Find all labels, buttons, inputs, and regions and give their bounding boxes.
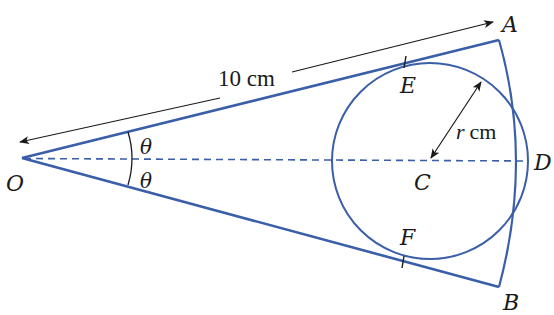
sector-inscribed-circle-diagram: 10 cm rcm θ θ O A B C D E F	[0, 0, 554, 315]
dimension-label-10cm: 10 cm	[218, 66, 275, 91]
point-label-F: F	[399, 225, 416, 250]
point-label-D: D	[533, 150, 552, 175]
dashed-line-OD	[24, 159, 528, 162]
point-label-O: O	[6, 171, 24, 196]
point-label-C: C	[414, 170, 431, 195]
point-label-E: E	[399, 73, 416, 98]
dimension-arrow-right	[292, 22, 493, 72]
arc-ADB	[499, 40, 516, 287]
angle-arc	[128, 132, 132, 185]
tick-F	[402, 256, 404, 268]
angle-label-top: θ	[140, 135, 152, 159]
side-OA	[22, 40, 499, 158]
angle-label-bottom: θ	[140, 169, 152, 193]
point-label-B: B	[502, 290, 519, 315]
radius-label-r: rcm	[456, 119, 496, 144]
point-label-A: A	[500, 12, 518, 37]
dimension-arrow-left	[20, 98, 220, 142]
